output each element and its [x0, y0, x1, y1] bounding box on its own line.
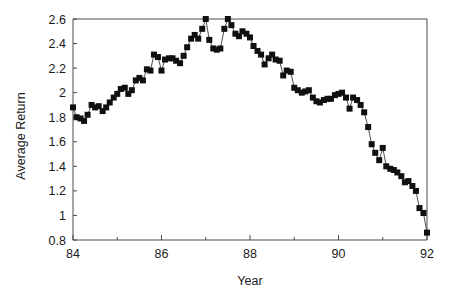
data-point-marker — [347, 106, 353, 112]
data-point-marker — [365, 124, 371, 130]
data-point-marker — [424, 230, 430, 236]
data-point-marker — [369, 141, 375, 147]
data-point-marker — [376, 157, 382, 163]
x-tick-label: 92 — [420, 247, 434, 261]
y-tick-label: 1.2 — [49, 184, 66, 198]
y-tick-label: 2.6 — [49, 13, 66, 27]
data-point-marker — [247, 34, 253, 40]
data-point-marker — [361, 109, 367, 115]
y-tick-label: 1.8 — [49, 111, 66, 125]
data-point-marker — [288, 69, 294, 75]
line-chart: 0.811.21.41.61.822.22.42.68486889092 Ave… — [0, 0, 460, 291]
data-point-marker — [199, 26, 205, 32]
chart-axes — [73, 19, 427, 240]
data-point-marker — [225, 16, 231, 22]
y-tick-label: 2.4 — [49, 37, 66, 51]
data-point-marker — [155, 54, 161, 60]
data-point-marker — [372, 150, 378, 156]
y-tick-label: 1.4 — [49, 160, 66, 174]
data-point-marker — [343, 95, 349, 101]
y-tick-label: 1.6 — [49, 135, 66, 149]
data-point-marker — [398, 173, 404, 179]
y-tick-label: 2 — [59, 86, 66, 100]
series-line-average-return — [73, 19, 427, 233]
x-tick-label: 90 — [332, 247, 346, 261]
data-point-marker — [358, 102, 364, 108]
chart-series — [70, 16, 430, 236]
data-point-marker — [380, 145, 386, 151]
y-tick-label: 0.8 — [49, 234, 66, 248]
data-point-marker — [147, 68, 153, 74]
data-point-marker — [195, 36, 201, 42]
data-point-marker — [177, 60, 183, 66]
x-tick-label: 88 — [243, 247, 257, 261]
data-point-marker — [221, 26, 227, 32]
data-point-marker — [306, 87, 312, 93]
data-point-marker — [159, 68, 165, 74]
data-point-marker — [420, 210, 426, 216]
data-point-marker — [262, 61, 268, 67]
data-point-marker — [81, 118, 87, 124]
data-point-marker — [228, 22, 234, 28]
data-point-marker — [413, 188, 419, 194]
data-point-marker — [217, 45, 223, 51]
data-point-marker — [184, 44, 190, 50]
chart-figure: 0.811.21.41.61.822.22.42.68486889092 Ave… — [0, 0, 460, 291]
x-tick-label: 84 — [66, 247, 80, 261]
x-tick-label: 86 — [155, 247, 169, 261]
y-axis-title: Average Return — [14, 92, 28, 179]
data-point-marker — [277, 58, 283, 64]
data-point-marker — [129, 87, 135, 93]
data-point-marker — [122, 85, 128, 91]
y-tick-label: 1 — [59, 209, 66, 223]
data-point-marker — [140, 77, 146, 83]
data-point-marker — [203, 16, 209, 22]
data-point-marker — [70, 104, 76, 110]
data-point-marker — [206, 37, 212, 43]
data-point-marker — [258, 52, 264, 58]
y-tick-label: 2.2 — [49, 62, 66, 76]
chart-tick-labels: 0.811.21.41.61.822.22.42.68486889092 — [49, 13, 434, 262]
data-point-marker — [85, 112, 91, 118]
data-point-marker — [181, 53, 187, 59]
x-axis-title: Year — [237, 274, 262, 288]
